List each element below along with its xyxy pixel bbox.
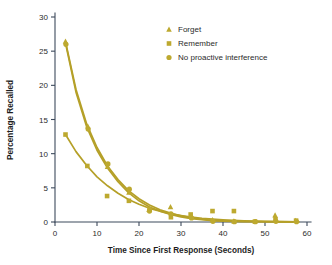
x-tick-label: 20 <box>135 229 144 238</box>
data-point-circle-marker <box>105 161 110 166</box>
data-point-circle-marker <box>294 219 299 224</box>
y-tick-label: 10 <box>39 150 48 159</box>
data-point-circle-marker <box>86 126 91 131</box>
x-tick-label: 40 <box>219 229 228 238</box>
legend-item-label: Forget <box>178 25 202 34</box>
x-tick-label: 30 <box>177 229 186 238</box>
data-point-circle-marker <box>210 219 215 224</box>
y-tick-label: 20 <box>39 81 48 90</box>
x-tick-label: 60 <box>303 229 312 238</box>
data-point-circle-marker <box>147 208 152 213</box>
legend-circle-icon <box>166 55 171 60</box>
data-point-circle-marker <box>127 187 132 192</box>
x-tick-label: 0 <box>53 229 58 238</box>
data-point-square-marker <box>210 209 215 214</box>
data-point-square-marker <box>85 164 90 169</box>
chart-background <box>0 0 332 265</box>
data-point-circle-marker <box>168 211 173 216</box>
recall-decay-scatter-chart: 051015202530 0102030405060 ForgetRemembe… <box>0 0 332 265</box>
chart-container: 051015202530 0102030405060 ForgetRemembe… <box>0 0 332 265</box>
data-point-circle-marker <box>189 215 194 220</box>
y-tick-label: 0 <box>44 218 49 227</box>
y-tick-label: 25 <box>39 47 48 56</box>
data-point-circle-marker <box>253 219 258 224</box>
y-tick-label: 5 <box>44 184 49 193</box>
data-point-circle-marker <box>232 219 237 224</box>
y-tick-label: 30 <box>39 13 48 22</box>
legend-item-label: Remember <box>178 39 218 48</box>
legend-item-label: No proactive interference <box>178 53 268 62</box>
data-point-square-marker <box>127 199 132 204</box>
x-axis-title: Time Since First Response (Seconds) <box>108 246 255 255</box>
data-point-square-marker <box>232 209 237 214</box>
y-axis-title: Percentage Recalled <box>6 80 15 160</box>
y-tick-label: 15 <box>39 116 48 125</box>
data-point-square-marker <box>63 132 68 137</box>
data-point-circle-marker <box>273 219 278 224</box>
data-point-circle-marker <box>63 42 68 47</box>
x-tick-label: 50 <box>261 229 270 238</box>
legend-square-icon <box>167 41 172 46</box>
data-point-square-marker <box>105 194 110 199</box>
x-tick-label: 10 <box>93 229 102 238</box>
